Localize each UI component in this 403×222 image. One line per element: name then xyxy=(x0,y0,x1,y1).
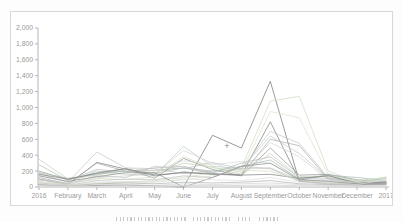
caption-fragment xyxy=(193,217,231,221)
y-tick-label: 1,800 xyxy=(16,40,33,47)
y-tick-label: 1,600 xyxy=(16,56,33,63)
y-tick-label: 1,000 xyxy=(16,104,33,111)
x-tick-label: November xyxy=(312,192,344,199)
x-tick-label: October xyxy=(287,192,312,199)
y-tick-label: 200 xyxy=(22,168,34,175)
x-tick-label: July xyxy=(206,192,219,200)
cursor-crosshair-marker: + xyxy=(224,141,229,151)
y-tick-label: 2,000 xyxy=(16,24,33,31)
cropped-caption-text xyxy=(116,217,296,222)
multi-series-line-chart[interactable]: 02004006008001,0001,2001,4001,6001,8002,… xyxy=(11,12,392,205)
y-tick-label: 1,400 xyxy=(16,72,33,79)
x-tick-label: August xyxy=(231,192,252,200)
x-tick-label: March xyxy=(87,192,106,199)
chart-panel: 02004006008001,0001,2001,4001,6001,8002,… xyxy=(10,11,393,206)
x-tick-label: June xyxy=(176,192,191,199)
y-tick-label: 400 xyxy=(22,152,34,159)
y-tick-label: 600 xyxy=(22,136,34,143)
caption-fragment xyxy=(259,217,281,221)
y-tick-label: 1,200 xyxy=(16,88,33,95)
x-tick-label: December xyxy=(341,192,373,199)
x-tick-label: September xyxy=(254,192,288,200)
x-tick-label: February xyxy=(54,192,82,200)
caption-fragment xyxy=(238,217,252,221)
x-tick-label: 2017 xyxy=(378,192,392,199)
x-tick-label: 2016 xyxy=(31,192,46,199)
caption-fragment xyxy=(116,217,186,221)
x-tick-label: May xyxy=(148,192,161,200)
x-tick-label: April xyxy=(119,192,133,200)
y-tick-label: 0 xyxy=(29,183,33,190)
screenshot-root: 02004006008001,0001,2001,4001,6001,8002,… xyxy=(0,0,403,222)
y-tick-label: 800 xyxy=(22,120,34,127)
